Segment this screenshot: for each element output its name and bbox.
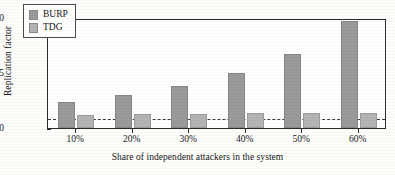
legend-label-burp: BURP: [43, 8, 68, 21]
x-tick-mark: [188, 129, 189, 133]
bar-tdg-10: [77, 115, 94, 128]
x-tick-label: 40%: [225, 134, 265, 144]
bar-tdg-40: [247, 113, 264, 128]
y-tick-label: 5: [0, 68, 4, 78]
legend-swatch-burp-icon: [29, 10, 38, 20]
legend-item-tdg: TDG: [29, 21, 68, 34]
bar-burp-40: [228, 73, 245, 128]
x-tick-label: 20%: [112, 134, 152, 144]
x-tick-mark: [132, 129, 133, 133]
legend-swatch-tdg-icon: [29, 23, 38, 33]
bar-chart-figure: Replication factor 0510 10%20%30%40%50%6…: [0, 0, 395, 175]
x-tick-mark: [245, 129, 246, 133]
y-tick-label: 10: [0, 13, 4, 23]
bar-burp-30: [171, 86, 188, 128]
legend-label-tdg: TDG: [43, 21, 63, 34]
legend-item-burp: BURP: [29, 8, 68, 21]
chart-legend: BURP TDG: [23, 4, 76, 38]
x-tick-mark: [75, 129, 76, 133]
bar-burp-10: [58, 102, 75, 128]
bar-tdg-50: [303, 113, 320, 128]
bar-burp-20: [115, 95, 132, 128]
bar-burp-60: [341, 21, 358, 128]
reference-line-y1: [48, 119, 385, 120]
x-tick-label: 50%: [281, 134, 321, 144]
x-tick-mark: [301, 129, 302, 133]
bar-tdg-20: [134, 114, 151, 128]
bar-tdg-60: [360, 113, 377, 128]
x-tick-mark: [358, 129, 359, 133]
x-tick-label: 60%: [338, 134, 378, 144]
x-tick-label: 10%: [55, 134, 95, 144]
plot-area: [47, 19, 386, 129]
bar-tdg-30: [190, 114, 207, 128]
x-axis-label: Share of independent attackers in the sy…: [0, 152, 395, 162]
y-tick-mark: [47, 129, 51, 130]
y-axis-label: Replication factor: [3, 1, 13, 121]
bar-burp-50: [284, 54, 301, 128]
x-tick-label: 30%: [168, 134, 208, 144]
y-tick-label: 0: [0, 123, 4, 133]
